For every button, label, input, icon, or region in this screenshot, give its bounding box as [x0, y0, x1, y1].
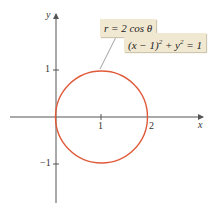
- y-tick-label-1: 1: [45, 63, 50, 74]
- cartesian-equation-label: (x − 1)2 + y2 = 1: [124, 33, 206, 52]
- eq-part: = 1: [183, 39, 201, 51]
- y-axis-label: y: [46, 9, 50, 20]
- label-pointer: [100, 37, 116, 69]
- x-tick-label-2: 2: [149, 120, 154, 131]
- eq-part: (x − 1): [128, 39, 159, 51]
- x-tick-label-1: 1: [98, 120, 103, 131]
- x-axis-label: x: [198, 119, 202, 130]
- eq-part: + y: [162, 39, 180, 51]
- y-tick-label-neg1: −1: [40, 157, 51, 168]
